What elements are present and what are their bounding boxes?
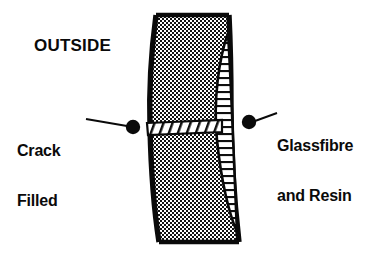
callout-crack-filled [86,119,140,134]
crack-leader-dot [126,120,140,134]
label-glassfibre-line1: Glassfibre [277,138,353,155]
glassfibre-leader-dot [242,115,256,129]
label-glassfibre-line2: and Resin [277,188,353,205]
label-crack-filled-line1: Crack [17,143,60,160]
glassfibre-leader-line [255,113,277,121]
label-crack-filled: Crack Filled [17,110,60,226]
filled-crack-band [147,120,222,135]
label-crack-filled-line2: Filled [17,193,60,210]
label-glassfibre-and-resin: Glassfibre and Resin [277,105,353,221]
label-outside: OUTSIDE [34,37,111,55]
crack-leader-line [86,119,127,126]
callout-glassfibre-and-resin [242,113,277,129]
